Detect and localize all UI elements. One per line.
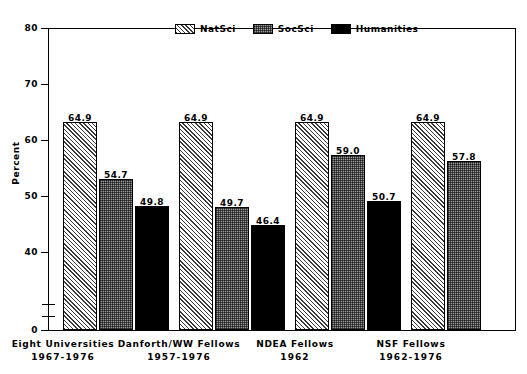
y-tick-label-60: 60	[0, 136, 38, 145]
bar-eight-universities-humanities[interactable]	[135, 206, 169, 330]
y-tick-50	[41, 196, 48, 197]
plot-area: 64.9 54.7 49.8 64.9 49.7 46.4 64.9 59.0 …	[49, 28, 515, 330]
y-tick-label-70: 70	[0, 80, 38, 89]
bar-nsf-fellows-socsci[interactable]	[447, 161, 481, 330]
y-tick-label-40: 40	[0, 248, 38, 257]
bar-value-nsf-fellows-socsci: 57.8	[441, 153, 487, 162]
bar-ndea-fellows-natsci[interactable]	[295, 122, 329, 330]
bar-value-eight-universities-humanities: 49.8	[129, 198, 175, 207]
bar-group-danforth-ww-fellows: 64.9 49.7 46.4	[179, 28, 289, 330]
y-tick-80	[41, 28, 48, 29]
bar-value-danforth-ww-fellows-socsci: 49.7	[209, 199, 255, 208]
bar-value-eight-universities-socsci: 54.7	[93, 171, 139, 180]
bar-value-eight-universities-natsci: 64.9	[57, 114, 103, 123]
bar-value-danforth-ww-fellows-humanities: 46.4	[245, 217, 291, 226]
bar-value-nsf-fellows-natsci: 64.9	[405, 114, 451, 123]
y-tick-label-50: 50	[0, 192, 38, 201]
y-tick-label-80: 80	[0, 24, 38, 33]
y-tick-40	[41, 252, 48, 253]
bar-value-ndea-fellows-natsci: 64.9	[289, 114, 335, 123]
bar-group-eight-universities: 64.9 54.7 49.8	[63, 28, 173, 330]
bar-chart: Percent 80 70 60 50 40 0 NatSci SocSci H…	[0, 0, 527, 374]
bar-ndea-fellows-socsci[interactable]	[331, 155, 365, 330]
x-label-ndea-fellows-line1: NDEA Fellows	[256, 339, 334, 349]
y-tick-label-0: 0	[0, 326, 38, 335]
bar-value-ndea-fellows-humanities: 50.7	[361, 193, 407, 202]
bar-danforth-ww-fellows-humanities[interactable]	[251, 225, 285, 330]
bar-eight-universities-natsci[interactable]	[63, 122, 97, 330]
bar-eight-universities-socsci[interactable]	[99, 179, 133, 330]
y-axis-title: Percent	[11, 123, 21, 203]
bar-group-ndea-fellows: 64.9 59.0 50.7	[295, 28, 405, 330]
y-tick-0	[41, 330, 48, 331]
bar-danforth-ww-fellows-natsci[interactable]	[179, 122, 213, 330]
bar-group-nsf-fellows: 64.9 57.8	[411, 28, 521, 330]
bar-ndea-fellows-humanities[interactable]	[367, 201, 401, 330]
bar-value-ndea-fellows-socsci: 59.0	[325, 147, 371, 156]
bar-value-danforth-ww-fellows-natsci: 64.9	[173, 114, 219, 123]
x-axis-line	[48, 330, 516, 331]
bar-danforth-ww-fellows-socsci[interactable]	[215, 207, 249, 330]
bar-nsf-fellows-natsci[interactable]	[411, 122, 445, 330]
y-tick-70	[41, 84, 48, 85]
x-label-nsf-fellows: NSF Fellows 1962-1976	[331, 338, 491, 364]
x-label-nsf-fellows-line2: 1962-1976	[331, 351, 491, 364]
y-tick-60	[41, 140, 48, 141]
x-label-nsf-fellows-line1: NSF Fellows	[377, 339, 446, 349]
